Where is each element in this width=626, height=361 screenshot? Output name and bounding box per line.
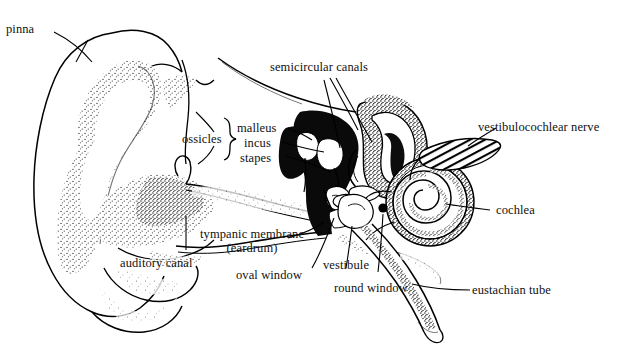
label-tympanic-membrane: tympanic membrane (eardrum)	[200, 227, 304, 255]
label-auditory-canal: auditory canal	[120, 256, 193, 270]
round-window-drawing	[378, 203, 387, 212]
label-pinna: pinna	[6, 22, 34, 36]
label-malleus: malleus	[237, 121, 277, 135]
label-tympanic-membrane-line1: tympanic membrane	[200, 227, 304, 241]
label-tympanic-membrane-line2: (eardrum)	[227, 241, 278, 255]
ear-anatomy-figure: pinna semicircular canals ossicles malle…	[0, 0, 626, 361]
label-eustachian-tube: eustachian tube	[472, 283, 551, 297]
label-incus: incus	[244, 136, 271, 150]
ear-anatomy-illustration	[0, 0, 626, 361]
label-oval-window: oval window	[236, 268, 302, 282]
label-vestibule: vestibule	[323, 258, 369, 272]
label-ossicles: ossicles	[182, 132, 222, 146]
label-round-window: round window	[334, 281, 408, 295]
label-cochlea: cochlea	[496, 203, 535, 217]
label-stapes: stapes	[240, 151, 271, 165]
label-semicircular-canals: semicircular canals	[270, 60, 368, 74]
vestibule-drawing	[338, 194, 373, 228]
label-vestibulocochlear-nerve: vestibulocochlear nerve	[478, 120, 599, 134]
